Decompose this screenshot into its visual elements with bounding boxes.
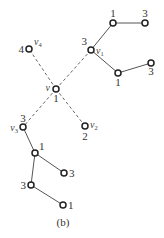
node-value-c3: 3 [21, 179, 27, 191]
node-name-v4: v4 [34, 36, 42, 48]
node-value-v1: 3 [82, 35, 88, 47]
node-c1 [32, 150, 38, 156]
node-value-b2: 3 [148, 65, 154, 77]
node-value-b1: 1 [115, 76, 121, 88]
node-value-a1: 1 [110, 7, 116, 19]
edge-b1-b2 [118, 63, 151, 73]
node-v2 [82, 123, 88, 129]
edge-v-v4 [29, 49, 56, 89]
node-name-v1: v1 [96, 45, 104, 57]
node-value-a2: 3 [142, 7, 148, 19]
tree-diagram: 1v3v12v23v34v413131331 (b) [0, 0, 164, 238]
edge-c3-c4 [31, 185, 63, 205]
node-c2 [61, 170, 67, 176]
node-v4 [26, 46, 32, 52]
edge-c1-c2 [35, 153, 64, 173]
node-name-v3: v3 [10, 122, 18, 134]
edge-v1-a1 [91, 23, 113, 50]
node-name-v2: v2 [90, 119, 98, 131]
node-value-c4: 1 [68, 199, 74, 211]
node-v1 [88, 47, 94, 53]
node-value-v2: 2 [82, 130, 88, 142]
node-value-v4: 4 [19, 43, 25, 55]
edge-v-v1 [56, 50, 91, 89]
node-c4 [60, 202, 66, 208]
node-value-c1: 1 [39, 140, 45, 152]
edges-layer [23, 23, 151, 205]
node-a1 [110, 20, 116, 26]
node-value-v3: 3 [20, 112, 26, 124]
node-value-c2: 3 [69, 167, 75, 179]
figure-caption: (b) [57, 216, 70, 229]
node-v3 [20, 124, 26, 130]
node-c3 [28, 182, 34, 188]
node-a2 [142, 20, 148, 26]
nodes-layer [20, 20, 154, 208]
edge-v-v3 [23, 89, 56, 127]
node-name-v: v [46, 82, 51, 93]
edge-v3-c1 [23, 127, 35, 153]
node-value-v: 1 [53, 92, 59, 104]
edge-c1-c3 [31, 153, 35, 185]
edge-v-v2 [56, 89, 85, 126]
